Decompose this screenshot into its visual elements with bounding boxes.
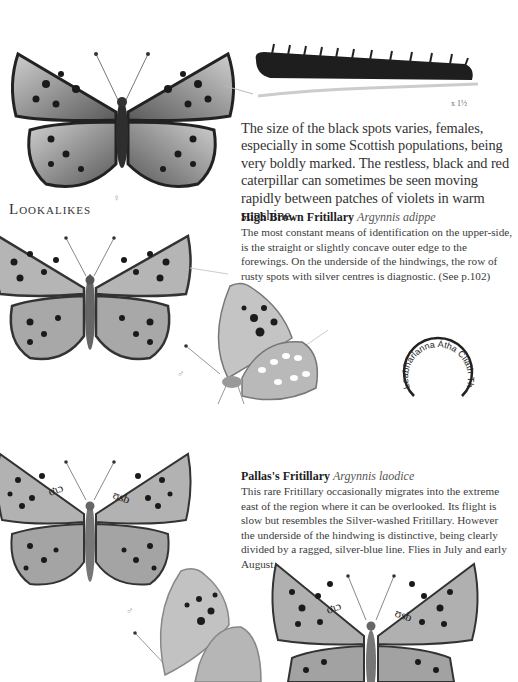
svg-text:ơιɔ: ơιɔ: [324, 599, 343, 617]
butterfly-illustration-pallas-underside: [125, 565, 275, 682]
stamp-text: Leabharlanna Átha Cliath Theas: [397, 322, 476, 390]
caterpillar-scale-label: x 1½: [451, 99, 467, 108]
entry-title: High Brown Fritillary Argynnis adippe: [241, 210, 513, 225]
pointer-line: [190, 268, 230, 276]
female-symbol: ♀: [113, 192, 121, 203]
common-name: Pallas's Fritillary: [241, 469, 330, 483]
entry-description: The most constant means of identificatio…: [241, 225, 513, 283]
butterfly-illustration-female-upperside: [6, 44, 238, 194]
entry-description: This rare Fritillary occasionally migrat…: [241, 484, 513, 572]
entry-pallas-fritillary: Pallas's Fritillary Argynnis laodice Thi…: [241, 469, 513, 572]
butterfly-illustration-high-brown-underside: [182, 278, 332, 408]
butterfly-illustration-pallas-upperside-large: ơιɔ ʊsb: [268, 562, 482, 682]
svg-text:ơιɔ: ơιɔ: [46, 481, 65, 499]
latin-name: Argynnis laodice: [333, 469, 414, 483]
latin-name: Argynnis adippe: [357, 210, 436, 224]
entry-high-brown-fritillary: High Brown Fritillary Argynnis adippe Th…: [241, 210, 513, 283]
library-stamp: Leabharlanna Átha Cliath Theas: [400, 330, 476, 406]
entry-title: Pallas's Fritillary Argynnis laodice: [241, 469, 513, 484]
butterfly-illustration-high-brown-upperside: [0, 232, 194, 362]
section-heading-lookalikes: Lookalikes: [9, 201, 91, 218]
main-description-text: The size of the black spots varies, fema…: [241, 120, 518, 224]
male-symbol: ♂: [177, 368, 185, 379]
common-name: High Brown Fritillary: [241, 210, 354, 224]
male-symbol: ♂: [126, 605, 134, 616]
